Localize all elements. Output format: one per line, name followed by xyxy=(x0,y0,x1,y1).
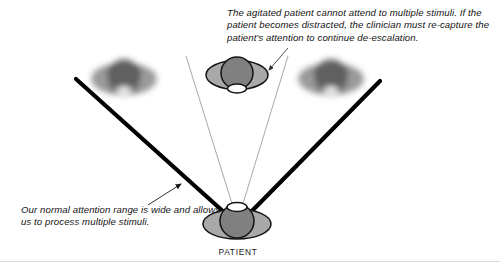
patient-label: PATIENT xyxy=(0,247,500,257)
stimulus-center xyxy=(206,57,268,93)
bottom-divider xyxy=(0,261,500,262)
caption-agitated-patient: The agitated patient cannot attend to mu… xyxy=(227,7,495,44)
patient-label-text: PATIENT xyxy=(218,247,257,257)
attention-line-right xyxy=(249,81,380,214)
stimulus-left xyxy=(93,61,155,95)
attention-diagram: The agitated patient cannot attend to mu… xyxy=(0,0,500,265)
attention-range-lines xyxy=(76,79,380,214)
attention-line-left xyxy=(76,79,226,214)
caption-normal-attention: Our normal attention range is wide and a… xyxy=(21,204,226,229)
leader-arrow-normal-caption xyxy=(148,184,181,205)
stimulus-right xyxy=(300,61,362,95)
